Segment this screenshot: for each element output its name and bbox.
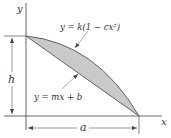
y-axis-label: y (16, 3, 23, 14)
parabola-label: y = k(1 − cx²) (59, 22, 120, 32)
parabola-leader (75, 31, 88, 48)
area-diagram: y x h a y = k(1 − cx²) y = mx + b (0, 0, 171, 138)
line-leader (62, 74, 78, 89)
x-axis-label: x (161, 116, 167, 127)
a-label: a (80, 121, 87, 134)
straight-line (26, 36, 139, 116)
line-equation-label: y = mx + b (33, 92, 82, 102)
h-label: h (8, 73, 15, 86)
